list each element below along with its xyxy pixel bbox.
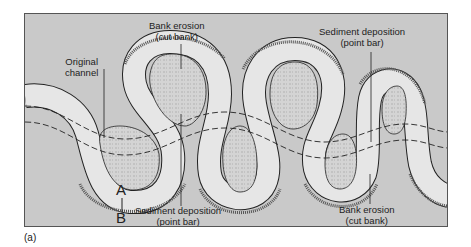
label-sediment-deposition-bottom: Sediment deposition (point bar) xyxy=(135,205,221,227)
label-bank-erosion-bottom: Bank erosion (cut bank) xyxy=(339,204,394,226)
panel-label: (a) xyxy=(24,232,36,243)
diagram-frame: Original channel Bank erosion (cut bank)… xyxy=(24,13,448,227)
point-bar xyxy=(223,126,257,192)
label-original-channel: Original channel xyxy=(65,56,98,78)
label-point-a: A xyxy=(116,182,126,197)
point-bar xyxy=(270,62,318,129)
label-sediment-deposition-top: Sediment deposition (point bar) xyxy=(319,26,405,48)
label-point-b: B xyxy=(116,210,126,225)
label-bank-erosion-top: Bank erosion (cut bank) xyxy=(149,20,204,42)
